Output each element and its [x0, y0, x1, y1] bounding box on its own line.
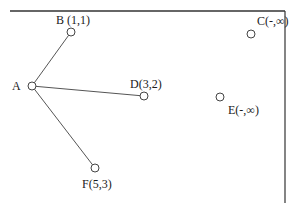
node-f-label: F(5,3) [82, 178, 112, 190]
node-d-circle-icon [140, 92, 148, 100]
node-e-circle-icon [216, 93, 224, 101]
node-a-label: A [12, 80, 21, 92]
edge-a-f [32, 86, 95, 168]
edge-a-b [32, 32, 71, 86]
node-d-label: D(3,2) [130, 78, 162, 90]
node-b-label: B (1,1) [56, 14, 90, 26]
node-b-circle-icon [67, 28, 75, 36]
graph-diagram [0, 0, 290, 203]
node-c-label: C(-,∞) [257, 15, 289, 27]
node-f-circle-icon [91, 164, 99, 172]
node-a-circle-icon [28, 82, 36, 90]
node-c-circle-icon [247, 30, 255, 38]
node-e-label: E(-,∞) [228, 104, 259, 116]
nodes [28, 28, 255, 172]
edges [32, 32, 144, 168]
edge-a-d [32, 86, 144, 96]
